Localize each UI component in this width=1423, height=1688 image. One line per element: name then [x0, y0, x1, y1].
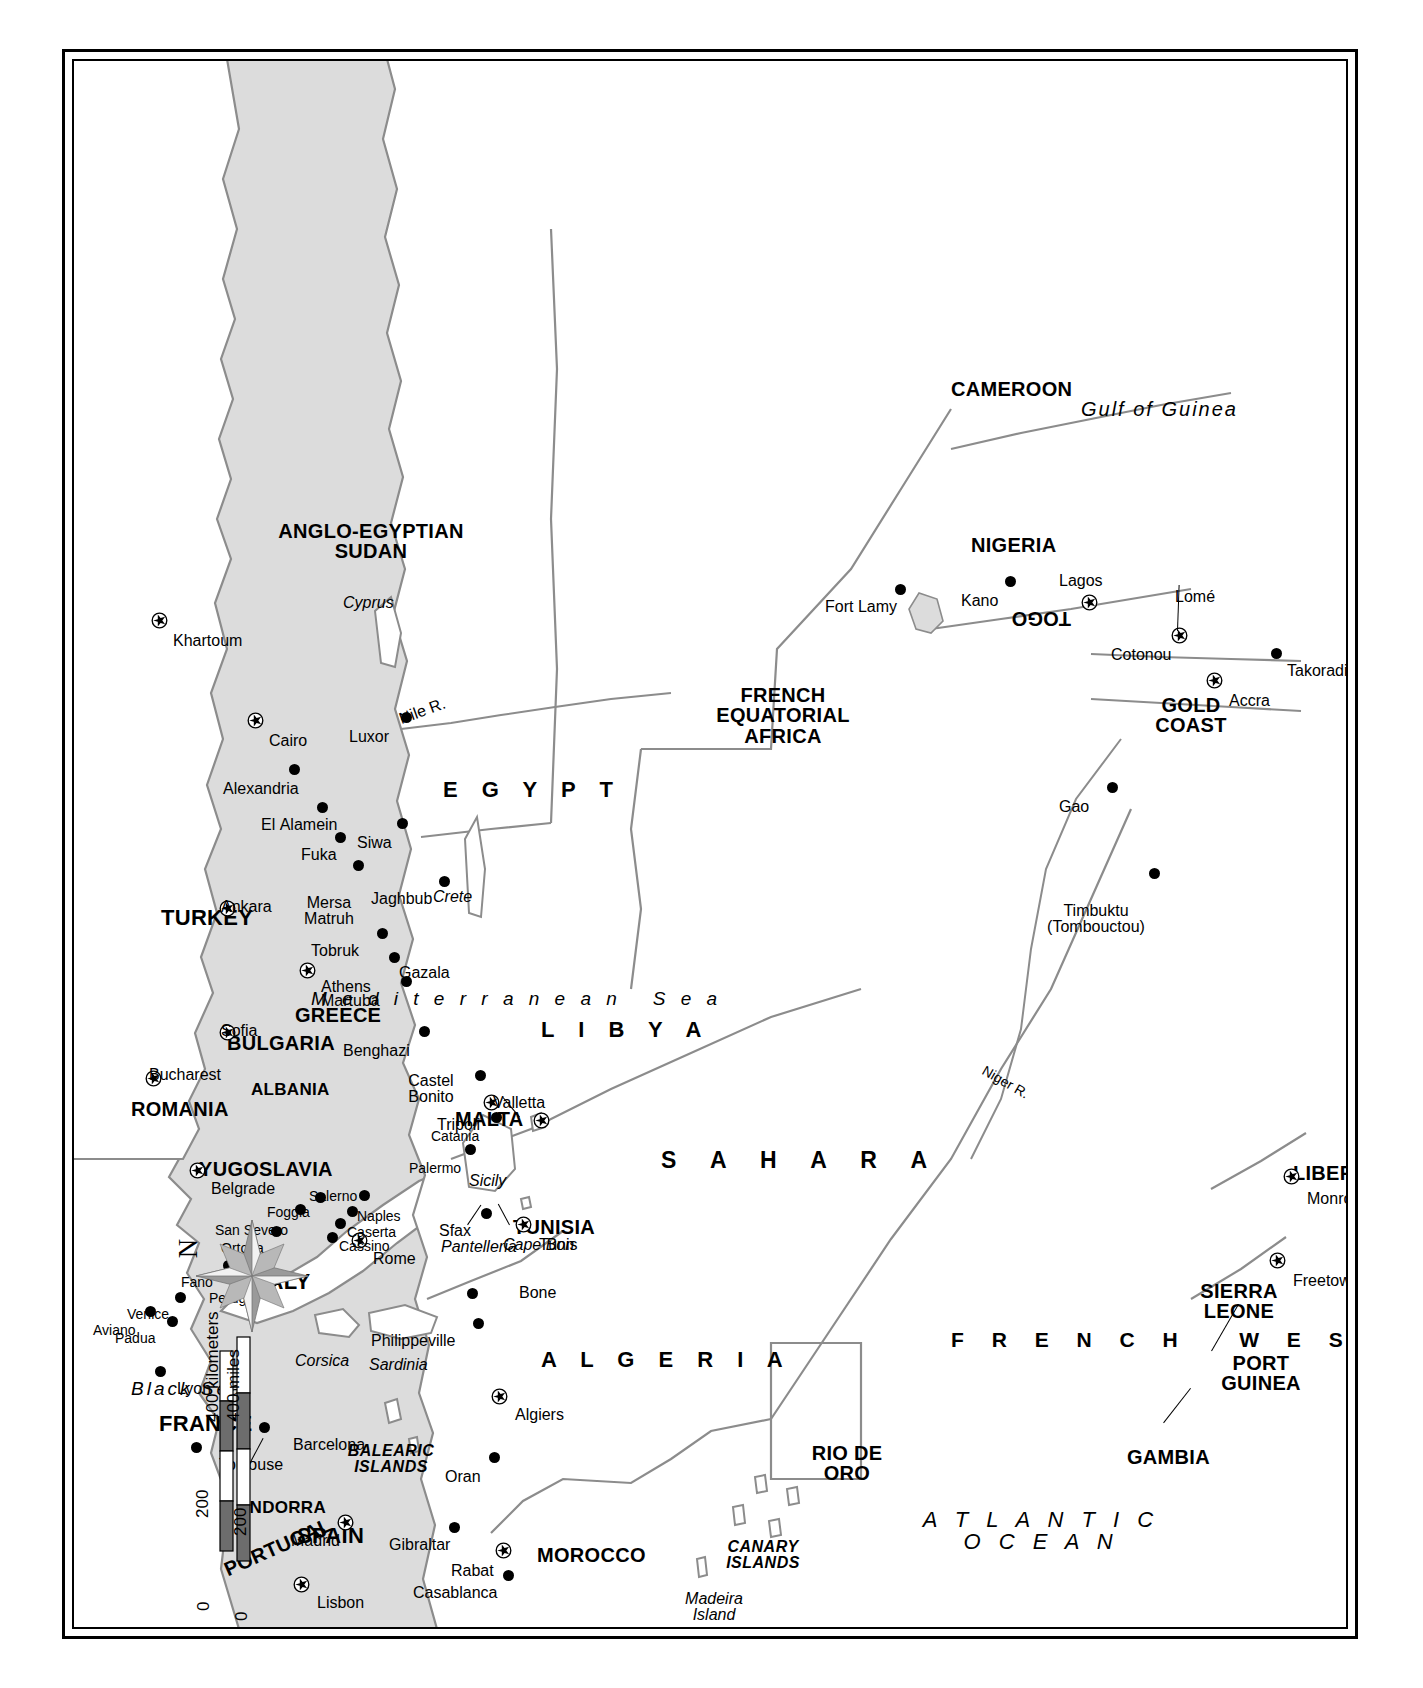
scale-label-miles: 400 miles — [224, 1312, 244, 1422]
label-togo: TOGO — [1011, 609, 1071, 629]
city-dot-casablanca — [503, 1570, 514, 1581]
label-yugoslavia: YUGOSLAVIA — [199, 1159, 333, 1179]
map-viewport[interactable]: Black Sea M e d i t e r r a n e a n S e … — [74, 61, 1346, 1627]
label-sardinia: Sardinia — [369, 1357, 428, 1373]
label-sfax: Sfax — [439, 1223, 471, 1239]
label-castel-bonito: Castel Bonito — [391, 1073, 471, 1106]
label-tobruk: Tobruk — [311, 943, 359, 959]
label-oran: Oran — [445, 1469, 481, 1485]
label-casablanca: Casablanca — [413, 1585, 498, 1601]
label-gao: Gao — [1059, 799, 1089, 815]
label-sahara: S A H A R A — [661, 1149, 941, 1172]
capital-marker-rabat — [495, 1542, 512, 1559]
capital-marker-athens — [299, 962, 316, 979]
label-algeria: A L G E R I A — [541, 1349, 792, 1371]
label-libya: L I B Y A — [541, 1019, 710, 1041]
label-philippeville: Philippeville — [371, 1333, 456, 1349]
label-romania: ROMANIA — [131, 1099, 229, 1119]
island-canary-3 — [769, 1519, 781, 1537]
label-belgrade: Belgrade — [211, 1181, 275, 1197]
capital-star-icon — [491, 1388, 508, 1405]
label-accra: Accra — [1229, 693, 1270, 709]
capital-star-icon — [515, 1216, 532, 1233]
label-siwa: Siwa — [357, 835, 392, 851]
capital-marker-monrovia — [1283, 1168, 1300, 1185]
city-dot-lyon — [155, 1366, 166, 1377]
city-dot-venice — [175, 1292, 186, 1303]
label-gibraltar: Gibraltar — [389, 1537, 450, 1553]
city-dot-benghazi — [419, 1026, 430, 1037]
capital-star-icon — [1283, 1168, 1300, 1185]
capital-marker-valletta — [533, 1112, 550, 1129]
label-fort-lamy: Fort Lamy — [825, 599, 897, 615]
city-dot-castel-bonito — [475, 1070, 486, 1081]
city-dot-gibraltar — [449, 1522, 460, 1533]
city-dot-tobruk — [377, 928, 388, 939]
island-canary-4 — [787, 1487, 799, 1505]
label-el-alamein: El Alamein — [261, 817, 337, 833]
label-french-equatorial-africa: FRENCH EQUATORIAL AFRICA — [663, 685, 903, 746]
capital-marker-accra — [1206, 672, 1223, 689]
capital-star-icon — [1206, 672, 1223, 689]
city-dot-siwa — [397, 818, 408, 829]
label-padua: Padua — [115, 1331, 155, 1345]
label-albania: ALBANIA — [251, 1081, 330, 1098]
label-lagos: Lagos — [1059, 573, 1103, 589]
label-cyprus: Cyprus — [343, 595, 394, 611]
compass-north-label: N — [173, 1239, 204, 1259]
capital-marker-khartoum — [151, 612, 168, 629]
city-dot-gazala — [389, 952, 400, 963]
label-rabat: Rabat — [451, 1563, 494, 1579]
capital-star-icon — [299, 962, 316, 979]
label-venice: Venice — [127, 1307, 169, 1321]
label-tunis: Tunis — [539, 1237, 578, 1253]
city-dot-palermo — [465, 1144, 476, 1155]
scale-tick-km-200: 200 — [193, 1448, 213, 1518]
label-takoradi: Takoradi — [1287, 663, 1346, 679]
island-pantelleria — [521, 1197, 531, 1209]
label-martuba: Martuba — [321, 993, 380, 1009]
capital-marker-madrid — [337, 1514, 354, 1531]
island-canary-2 — [755, 1475, 767, 1493]
label-nigeria: NIGERIA — [971, 535, 1056, 555]
capital-marker-belgrade — [189, 1162, 206, 1179]
capital-star-icon — [189, 1162, 206, 1179]
label-cassino: Cassino — [339, 1239, 390, 1253]
label-kano: Kano — [961, 593, 998, 609]
scale-tick-mi-200: 200 — [231, 1466, 251, 1536]
label-sierra-leone: SIERRA LEONE — [1169, 1281, 1309, 1322]
city-dot-philippeville — [473, 1318, 484, 1329]
label-bucharest: Bucharest — [149, 1067, 221, 1083]
label-crete: Crete — [433, 889, 472, 905]
label-alexandria: Alexandria — [223, 781, 299, 797]
city-dot-alexandria — [289, 764, 300, 775]
label-ankara: Ankara — [221, 899, 272, 915]
label-sicily: Sicily — [469, 1173, 506, 1189]
capital-star-icon — [495, 1542, 512, 1559]
city-dot-oran — [489, 1452, 500, 1463]
capital-star-icon — [1269, 1252, 1286, 1269]
capital-star-icon — [1171, 627, 1188, 644]
label-gambia: GAMBIA — [1127, 1447, 1210, 1467]
capital-marker-freetown — [1269, 1252, 1286, 1269]
city-dot-salerno — [359, 1190, 370, 1201]
label-sofia: Sofia — [221, 1023, 257, 1039]
capital-marker-lagos — [1081, 594, 1098, 611]
label-rio-de-oro: RIO DE ORO — [787, 1443, 907, 1484]
city-dot-gao — [1107, 782, 1118, 793]
label-jaghbub: Jaghbub — [371, 891, 432, 907]
label-salerno: Salerno — [309, 1189, 357, 1203]
label-cairo: Cairo — [269, 733, 307, 749]
capital-star-icon — [337, 1514, 354, 1531]
label-bone: Bone — [519, 1285, 556, 1301]
label-gazala: Gazala — [399, 965, 450, 981]
city-dot-el-alamein — [317, 802, 328, 813]
label-catania: Catania — [431, 1129, 479, 1143]
label-luxor: Luxor — [349, 729, 389, 745]
label-lisbon: Lisbon — [317, 1595, 364, 1611]
capital-star-icon — [1081, 594, 1098, 611]
city-dot-kano — [1005, 576, 1016, 587]
label-fuka: Fuka — [301, 847, 337, 863]
scale-tick-km-0: 0 — [194, 1551, 214, 1611]
capital-star-icon — [533, 1112, 550, 1129]
